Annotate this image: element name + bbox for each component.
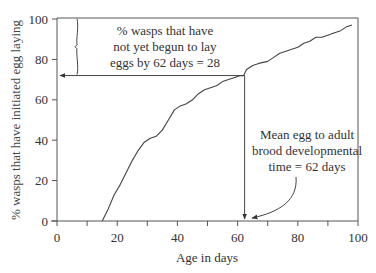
y-tick-label: 40 xyxy=(35,133,48,148)
brace-icon xyxy=(75,19,78,75)
x-tick-label: 0 xyxy=(54,230,61,245)
x-tick-label: 100 xyxy=(348,230,368,245)
x-tick-label: 40 xyxy=(171,230,184,245)
y-tick-label: 60 xyxy=(35,92,48,107)
y-tick-label: 0 xyxy=(42,214,49,229)
y-tick-label: 80 xyxy=(35,52,48,67)
annotation-line: eggs by 62 days = 28 xyxy=(80,55,250,71)
annotation-mean-development-time: Mean egg to adult brood developmental ti… xyxy=(248,127,366,175)
y-axis-label: % wasps that have initiated egg laying xyxy=(8,20,24,220)
x-tick-label: 60 xyxy=(231,230,244,245)
x-axis-label: Age in days xyxy=(176,250,238,266)
annotation-line: brood developmental xyxy=(248,143,366,159)
y-tick-label: 20 xyxy=(35,173,48,188)
y-tick-label: 100 xyxy=(29,12,49,27)
annotation-line: % wasps that have xyxy=(80,23,250,39)
annotation-line: time = 62 days xyxy=(248,159,366,175)
annotation-line: Mean egg to adult xyxy=(248,127,366,143)
x-tick-label: 20 xyxy=(111,230,124,245)
curved-arrow-icon xyxy=(252,177,296,218)
annotation-not-yet-laying: % wasps that have not yet begun to lay e… xyxy=(80,23,250,71)
x-tick-label: 80 xyxy=(291,230,304,245)
annotation-line: not yet begun to lay xyxy=(80,39,250,55)
